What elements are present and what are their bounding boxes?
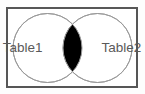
- set-label-table2: Table2: [102, 40, 142, 55]
- inner-join-venn-diagram: Table1 Table2: [0, 0, 145, 94]
- venn-diagram-canvas: Table1 Table2: [0, 0, 145, 94]
- set-label-table1: Table1: [3, 40, 43, 55]
